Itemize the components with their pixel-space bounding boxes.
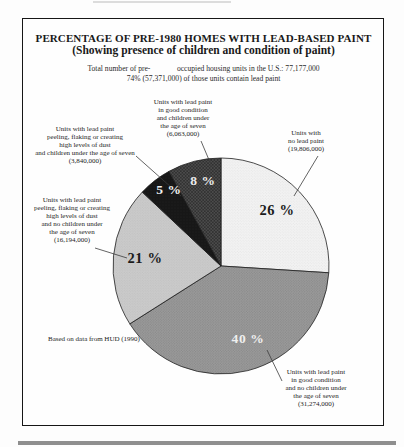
callout-no-lead-paint: Units withno lead paint(19,806,000) (288, 130, 324, 154)
pct-label-40: 40 % (232, 331, 265, 347)
bottom-page-rule (18, 441, 396, 445)
pct-label-5: 5 % (156, 182, 181, 198)
callout-peeling-no-children: Units with lead paintpeeling, flaking or… (34, 197, 110, 244)
callout-line: (16,194,000) (34, 237, 110, 245)
pct-label-26: 26 % (259, 202, 294, 219)
pct-label-21: 21 % (127, 250, 162, 267)
top-edge-smudge (93, 1, 231, 3)
source-note: Based on data from HUD (1990) (48, 335, 140, 343)
figure-title-line2: (Showing presence of children and condit… (22, 44, 385, 56)
figure-subtitle-line1: Total number of pre- occupied housing un… (22, 64, 385, 73)
figure-page: PERCENTAGE OF PRE-1980 HOMES WITH LEAD-B… (0, 0, 404, 447)
figure-subtitle-line2: 74% (57,371,000) of those units contain … (22, 74, 385, 83)
callout-good-condition-children: Units with lead paintin good conditionan… (154, 99, 213, 139)
callout-line: (19,806,000) (288, 146, 324, 154)
callout-peeling-children: Units with lead paintpeeling, flaking or… (35, 126, 135, 166)
figure-title-line1: PERCENTAGE OF PRE-1980 HOMES WITH LEAD-B… (22, 32, 385, 44)
callout-line: (6,063,000) (154, 131, 213, 139)
callout-good-condition-no-children: Units with lead paintin good conditionan… (285, 369, 346, 409)
callout-line: (3,840,000) (35, 158, 135, 166)
callout-line: (31,274,000) (285, 401, 346, 409)
pct-label-8: 8 % (190, 173, 215, 189)
